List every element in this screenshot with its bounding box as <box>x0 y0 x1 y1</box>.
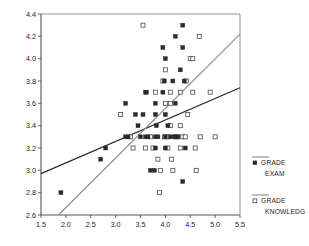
data-point-knowledg <box>191 57 195 61</box>
x-tick-label: 2.0 <box>61 220 71 229</box>
data-point-exam <box>178 68 182 72</box>
data-point-exam <box>161 90 165 94</box>
y-tick-label: 3.0 <box>26 166 36 175</box>
legend-label-line1: GRADE <box>261 159 286 166</box>
data-point-exam <box>99 157 103 161</box>
data-point-knowledg <box>186 113 190 117</box>
data-point-knowledg <box>198 135 202 139</box>
y-tick-label: 2.8 <box>26 188 36 197</box>
data-point-knowledg <box>191 90 195 94</box>
y-tick-label: 4.0 <box>26 54 36 63</box>
x-axis-tick-labels: 1.52.02.53.03.54.04.55.05.5 <box>36 220 245 229</box>
data-point-exam <box>181 23 185 27</box>
y-tick-label: 4.2 <box>26 32 36 41</box>
y-axis-tick-labels: 2.62.83.03.23.43.63.84.04.24.4 <box>26 10 36 220</box>
data-point-knowledg <box>193 146 197 150</box>
y-tick-label: 3.6 <box>26 99 36 108</box>
y-tick-label: 3.8 <box>26 77 36 86</box>
data-point-exam <box>173 101 177 105</box>
data-point-exam <box>163 135 167 139</box>
data-point-exam <box>153 113 157 117</box>
data-point-knowledg <box>169 157 173 161</box>
y-tick-label: 4.4 <box>26 10 36 19</box>
data-point-knowledg <box>141 23 145 27</box>
data-point-exam <box>156 135 160 139</box>
data-point-knowledg <box>171 168 175 172</box>
data-point-exam <box>171 79 175 83</box>
y-tick-label: 3.4 <box>26 121 36 130</box>
data-point-exam <box>168 135 172 139</box>
data-point-knowledg <box>157 191 161 195</box>
tick-marks <box>38 14 240 218</box>
x-tick-label: 1.5 <box>36 220 46 229</box>
plot-canvas: 1.52.02.53.03.54.04.55.05.5 2.62.83.03.2… <box>0 0 309 246</box>
data-point-knowledg <box>183 135 187 139</box>
data-point-knowledg <box>158 168 162 172</box>
legend-marker-open-square-icon <box>253 199 257 203</box>
axes <box>41 14 240 215</box>
x-tick-label: 4.5 <box>185 220 195 229</box>
data-point-exam <box>136 124 140 128</box>
scatter-plot-figure: 1.52.02.53.03.54.04.55.05.5 2.62.83.03.2… <box>0 0 309 246</box>
data-point-exam <box>161 46 165 50</box>
series-grade-knowledg-points <box>119 23 218 195</box>
data-point-exam <box>162 79 166 83</box>
data-point-exam <box>166 124 170 128</box>
data-point-knowledg <box>153 90 157 94</box>
legend-marker-filled-square-icon <box>253 161 257 165</box>
legend-label-line2: KNOWLEDG <box>265 208 305 215</box>
regression-line <box>41 88 240 174</box>
data-point-knowledg <box>194 168 198 172</box>
data-point-exam <box>139 135 143 139</box>
data-point-exam <box>104 146 108 150</box>
data-point-knowledg <box>168 101 172 105</box>
axis-spines <box>41 14 240 215</box>
data-point-exam <box>148 168 152 172</box>
legend: GRADEEXAMGRADEKNOWLEDG <box>252 157 305 215</box>
data-point-exam <box>163 57 167 61</box>
x-tick-label: 5.5 <box>235 220 245 229</box>
data-point-exam <box>124 101 128 105</box>
data-point-exam <box>134 113 138 117</box>
data-point-exam <box>146 135 150 139</box>
data-point-knowledg <box>143 146 147 150</box>
data-point-exam <box>153 146 157 150</box>
y-tick-label: 2.6 <box>26 211 36 220</box>
legend-label-line2: EXAM <box>265 170 285 177</box>
data-point-exam <box>181 180 185 184</box>
y-tick-label: 3.2 <box>26 144 36 153</box>
regression-line <box>58 34 240 215</box>
data-point-exam <box>176 135 180 139</box>
data-point-exam <box>152 168 156 172</box>
legend-label-line1: GRADE <box>261 197 286 204</box>
data-point-knowledg <box>213 135 217 139</box>
data-point-exam <box>181 46 185 50</box>
data-point-knowledg <box>119 113 123 117</box>
data-point-knowledg <box>131 146 135 150</box>
x-tick-label: 5.0 <box>210 220 220 229</box>
data-point-knowledg <box>178 90 182 94</box>
data-point-knowledg <box>197 34 201 38</box>
data-point-exam <box>183 146 187 150</box>
data-point-knowledg <box>168 90 172 94</box>
data-point-exam <box>154 124 158 128</box>
x-tick-label: 4.0 <box>160 220 170 229</box>
data-point-knowledg <box>156 157 160 161</box>
data-point-knowledg <box>178 124 182 128</box>
data-point-knowledg <box>208 90 212 94</box>
plot-frame <box>41 14 240 215</box>
data-point-knowledg <box>163 101 167 105</box>
data-point-exam <box>182 79 186 83</box>
data-point-knowledg <box>163 68 167 72</box>
data-point-exam <box>141 113 145 117</box>
x-tick-label: 2.5 <box>86 220 96 229</box>
data-point-knowledg <box>178 146 182 150</box>
series-grade-exam-points <box>59 23 187 195</box>
data-point-exam <box>163 113 167 117</box>
data-point-exam <box>126 135 130 139</box>
data-point-exam <box>59 191 63 195</box>
data-point-exam <box>163 146 167 150</box>
data-point-exam <box>144 90 148 94</box>
data-point-exam <box>153 101 157 105</box>
x-tick-label: 3.0 <box>111 220 121 229</box>
